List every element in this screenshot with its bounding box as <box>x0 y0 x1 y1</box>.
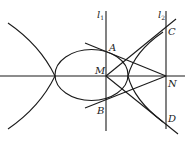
tangent-BN <box>85 76 166 108</box>
label-M: M <box>94 65 106 76</box>
geometry-diagram: l1 l2 A M B C N D <box>0 0 185 151</box>
label-l2: l2 <box>158 9 165 21</box>
label-C: C <box>168 26 176 37</box>
label-D: D <box>167 113 176 124</box>
ellipse <box>55 50 128 101</box>
label-A: A <box>108 42 116 53</box>
label-N: N <box>167 78 178 89</box>
label-B: B <box>96 105 104 116</box>
label-l1: l1 <box>97 9 104 21</box>
